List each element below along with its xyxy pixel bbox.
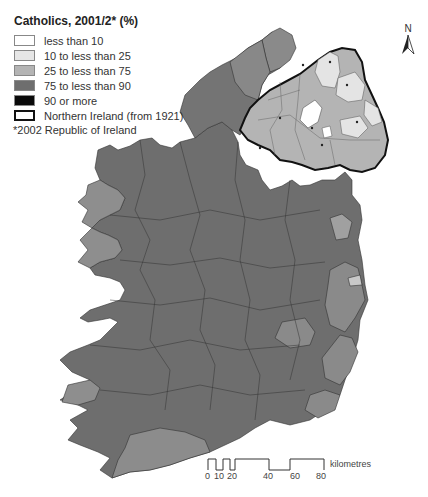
legend-item-90plus: 90 or more: [14, 93, 214, 108]
north-arrow-icon: [401, 34, 415, 56]
legend-item-25-75: 25 to less than 75: [14, 63, 214, 78]
legend-item-lt10: less than 10: [14, 33, 214, 48]
legend-title: Catholics, 2001/2* (%): [14, 14, 214, 28]
scale-tick-0: 0: [205, 471, 210, 481]
legend-label: Northern Ireland (from 1921): [44, 110, 183, 122]
legend-item-10-25: 10 to less than 25: [14, 48, 214, 63]
footnote: *2002 Republic of Ireland: [13, 124, 137, 136]
north-arrow: N: [398, 24, 418, 60]
legend-label: 25 to less than 75: [44, 65, 131, 77]
legend: Catholics, 2001/2* (%) less than 10 10 t…: [14, 14, 214, 123]
legend-label: less than 10: [44, 35, 103, 47]
scale-tick-80: 80: [316, 471, 326, 481]
scale-tick-20: 20: [227, 471, 237, 481]
scale-tick-60: 60: [290, 471, 300, 481]
swatch-90plus: [14, 95, 35, 106]
scale-tick-10: 10: [214, 471, 224, 481]
region-ni-carrickfergus: [322, 126, 332, 138]
scale-tick-40: 40: [263, 471, 273, 481]
scale-unit: kilometres: [330, 459, 371, 469]
legend-label: 10 to less than 25: [44, 50, 131, 62]
swatch-25-75: [14, 65, 35, 76]
legend-label: 75 to less than 90: [44, 80, 131, 92]
legend-item-75-90: 75 to less than 90: [14, 78, 214, 93]
scale-bar-graphic: [205, 456, 330, 472]
swatch-75-90: [14, 80, 35, 91]
legend-item-ni-border: Northern Ireland (from 1921): [14, 108, 214, 123]
region-republic-main: [60, 122, 368, 478]
swatch-ni-border: [14, 110, 35, 121]
swatch-10-25: [14, 50, 35, 61]
legend-label: 90 or more: [44, 95, 97, 107]
swatch-lt10: [14, 35, 35, 46]
north-label: N: [398, 24, 418, 34]
